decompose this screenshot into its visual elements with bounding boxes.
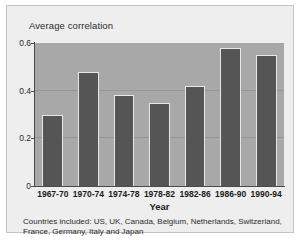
y-axis-line bbox=[34, 42, 35, 187]
bar[interactable] bbox=[256, 55, 277, 186]
bar[interactable] bbox=[42, 115, 63, 187]
x-tick-label: 1982-86 bbox=[177, 189, 213, 199]
x-tick-label: 1967-70 bbox=[35, 189, 71, 199]
y-tick-mark bbox=[31, 138, 34, 139]
bar[interactable] bbox=[149, 103, 170, 186]
x-tick-label: 1974-78 bbox=[106, 189, 142, 199]
y-tick-label: 0.2 bbox=[19, 133, 31, 143]
bar[interactable] bbox=[220, 48, 241, 186]
y-axis-title: Average correlation bbox=[29, 20, 113, 31]
bar[interactable] bbox=[114, 95, 135, 186]
bar[interactable] bbox=[185, 86, 206, 186]
gridline bbox=[35, 90, 284, 91]
plot-inner bbox=[35, 43, 284, 186]
x-tick-label: 1978-82 bbox=[142, 189, 178, 199]
plot-area bbox=[35, 43, 284, 186]
y-axis-ticks: 00.20.40.6 bbox=[7, 6, 31, 240]
x-tick-label: 1970-74 bbox=[71, 189, 107, 199]
bar[interactable] bbox=[78, 72, 99, 186]
y-tick-mark bbox=[31, 91, 34, 92]
y-tick-label: 0.6 bbox=[19, 38, 31, 48]
chart-caption: Countries included: US, UK, Canada, Belg… bbox=[23, 217, 285, 237]
x-axis-line bbox=[34, 186, 285, 187]
x-axis-title: Year bbox=[35, 201, 284, 212]
y-tick-mark bbox=[31, 186, 34, 187]
y-tick-mark bbox=[31, 43, 34, 44]
x-tick-label: 1986-90 bbox=[213, 189, 249, 199]
x-tick-label: 1990-94 bbox=[248, 189, 284, 199]
y-tick-label: 0.4 bbox=[19, 86, 31, 96]
figure-card: Average correlation 00.20.40.6 Year Coun… bbox=[6, 5, 294, 233]
